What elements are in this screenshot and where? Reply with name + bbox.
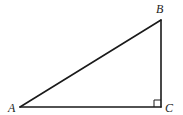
edge-ab — [20, 20, 161, 107]
right-angle-marker — [154, 100, 161, 107]
vertex-label-b: B — [156, 2, 164, 16]
triangle-edges — [20, 20, 161, 107]
vertex-label-a: A — [7, 101, 16, 115]
vertex-label-c: C — [165, 101, 174, 115]
right-triangle-diagram: A B C — [0, 0, 183, 115]
